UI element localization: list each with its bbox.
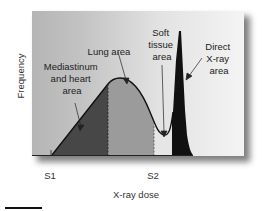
xray-histogram-diagram: Lung area Mediastinum and heart area Sof…: [0, 0, 265, 211]
label-lung: Lung area: [88, 46, 132, 57]
x-tick-s1: S1: [44, 170, 56, 181]
x-tick-s2: S2: [147, 170, 159, 181]
x-axis-label: X-ray dose: [113, 189, 159, 200]
y-axis-label: Frequency: [15, 53, 26, 98]
